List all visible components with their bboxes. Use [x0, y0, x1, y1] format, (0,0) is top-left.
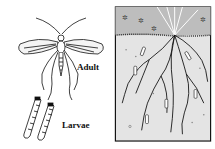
adult-label: Adult	[77, 62, 99, 72]
svg-text:✲: ✲	[138, 17, 144, 24]
larvae-illustration	[22, 96, 62, 141]
larvae-label: Larvae	[62, 120, 90, 130]
svg-text:✲: ✲	[122, 14, 128, 21]
svg-text:✲: ✲	[200, 16, 206, 23]
adult-insect-illustration	[8, 14, 108, 104]
root-soil-scene: ✲✲✲✲	[114, 6, 212, 142]
svg-text:✲: ✲	[151, 25, 157, 32]
